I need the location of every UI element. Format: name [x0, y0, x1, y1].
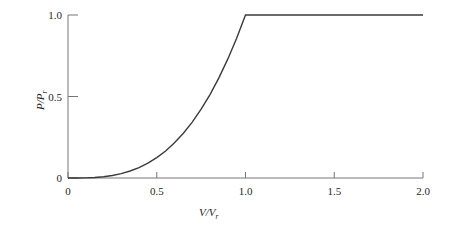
- y-axis-title-sub: r: [40, 91, 49, 94]
- x-tick-label: 1.5: [327, 185, 341, 197]
- y-axis-title: P/Pr: [34, 91, 49, 110]
- x-tick-label: 0: [65, 185, 71, 197]
- chart-plot-area: [0, 0, 451, 236]
- x-axis-title-sub: r: [216, 212, 219, 221]
- axes-group: [68, 15, 423, 178]
- y-tick-label: 0: [57, 172, 63, 184]
- x-axis-title: V/Vr: [199, 206, 218, 221]
- x-tick-label: 1.0: [239, 185, 253, 197]
- x-tick-label: 0.5: [150, 185, 164, 197]
- y-ticks-group: [68, 15, 78, 178]
- power-curve-chart: 00.51.01.52.000.51.0 V/Vr P/Pr: [0, 0, 451, 236]
- x-axis-title-main: V/V: [199, 206, 216, 218]
- y-axis-title-main: P/P: [34, 94, 46, 111]
- power-curve-line: [68, 15, 423, 178]
- y-tick-label: 1.0: [48, 9, 62, 21]
- y-tick-label: 0.5: [48, 91, 62, 103]
- x-tick-label: 2.0: [416, 185, 430, 197]
